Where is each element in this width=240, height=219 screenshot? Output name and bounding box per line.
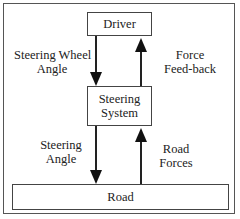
label-line: Force xyxy=(158,48,222,62)
node-road: Road xyxy=(12,184,229,210)
node-road-label: Road xyxy=(107,190,133,204)
label-line: Angle xyxy=(14,62,90,76)
node-driver: Driver xyxy=(87,12,152,36)
edge-label-force-feedback: Force Feed-back xyxy=(158,48,222,76)
label-line: Forces xyxy=(156,156,196,170)
arrow-steering-wheel-angle xyxy=(90,36,102,86)
node-driver-label: Driver xyxy=(103,17,136,31)
label-line: Feed-back xyxy=(158,62,222,76)
arrow-steering-angle xyxy=(90,126,102,184)
node-steering-system-label-1: Steering xyxy=(99,92,141,106)
edge-label-steering-angle: Steering Angle xyxy=(36,138,86,166)
label-line: Steering Wheel xyxy=(14,48,90,62)
label-line: Angle xyxy=(36,152,86,166)
label-line: Road xyxy=(156,142,196,156)
arrow-force-feedback xyxy=(135,38,147,86)
node-steering-system-label-2: System xyxy=(101,106,138,120)
edge-label-road-forces: Road Forces xyxy=(156,142,196,170)
edge-label-steering-wheel-angle: Steering Wheel Angle xyxy=(14,48,90,76)
node-steering-system: Steering System xyxy=(87,86,152,126)
label-line: Steering xyxy=(36,138,86,152)
arrow-road-forces xyxy=(135,128,147,184)
